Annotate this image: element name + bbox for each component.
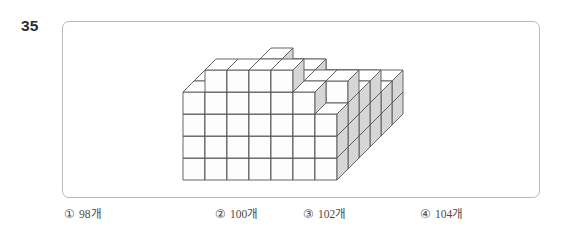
isometric-cube-stack-figure <box>63 22 541 199</box>
figure-frame <box>62 21 540 198</box>
option-3-label: 102개 <box>318 206 346 222</box>
question-page: 35 ①98개 ②100개 ③102개 ④104개 <box>0 0 562 247</box>
option-2[interactable]: ②100개 <box>215 206 258 222</box>
option-3-marker: ③ <box>303 206 314 222</box>
option-1-marker: ① <box>64 206 75 222</box>
option-4-marker: ④ <box>420 206 431 222</box>
option-4-label: 104개 <box>435 206 463 222</box>
option-1-label: 98개 <box>79 206 102 222</box>
option-2-label: 100개 <box>230 206 258 222</box>
option-4[interactable]: ④104개 <box>420 206 463 222</box>
option-1[interactable]: ①98개 <box>64 206 102 222</box>
option-3[interactable]: ③102개 <box>303 206 346 222</box>
answer-options: ①98개 ②100개 ③102개 ④104개 <box>62 206 540 230</box>
question-number: 35 <box>21 17 39 35</box>
option-2-marker: ② <box>215 206 226 222</box>
